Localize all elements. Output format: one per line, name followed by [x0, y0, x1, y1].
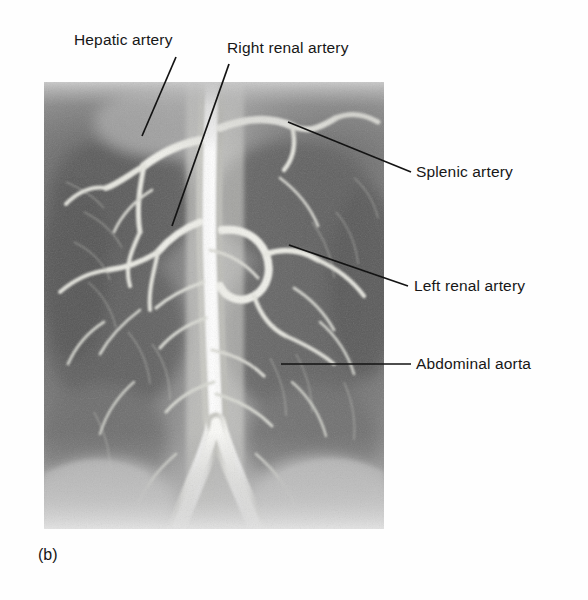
label-abdominal-aorta: Abdominal aorta [416, 355, 531, 372]
label-hepatic-artery: Hepatic artery [74, 31, 173, 48]
panel-caption: (b) [38, 546, 58, 564]
film-grain [44, 82, 384, 529]
label-splenic-artery: Splenic artery [416, 163, 513, 180]
angiogram-rendering [44, 82, 384, 529]
figure-root: Hepatic artery Right renal artery Spleni… [0, 0, 588, 600]
angiogram-image [44, 82, 384, 529]
label-right-renal-artery: Right renal artery [227, 39, 349, 56]
label-left-renal-artery: Left renal artery [414, 277, 525, 294]
